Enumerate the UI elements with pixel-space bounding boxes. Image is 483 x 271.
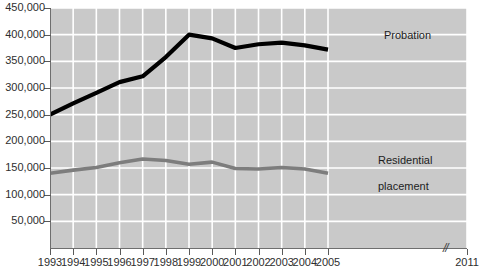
x-axis-tick-label: 2000 [200, 257, 224, 268]
y-axis-tick [44, 141, 51, 142]
y-axis-tick-label: 200,000 [5, 135, 45, 146]
y-axis-tick-label: 100,000 [5, 189, 45, 200]
plot-canvas [50, 8, 467, 248]
x-axis-tick-label: 2005 [316, 257, 340, 268]
x-axis-tick-label: 1997 [130, 257, 154, 268]
y-axis-tick [44, 35, 51, 36]
x-axis-tick [96, 249, 97, 255]
series-label-residential-line2: placement [378, 180, 429, 192]
y-axis-tick-label: 300,000 [5, 82, 45, 93]
x-axis-tick [166, 249, 167, 255]
x-axis-tick [467, 249, 468, 255]
y-axis-tick [44, 61, 51, 62]
x-axis-tick [305, 249, 306, 255]
x-axis-tick-label: 2011 [455, 257, 479, 268]
y-axis-tick [44, 8, 51, 9]
x-axis-tick-label: 2003 [269, 257, 293, 268]
x-axis-tick [282, 249, 283, 255]
x-axis-tick-label: 1994 [61, 257, 85, 268]
x-axis-tick [235, 249, 236, 255]
x-axis-tick [143, 249, 144, 255]
y-axis-tick-label: 350,000 [5, 55, 45, 66]
series-label-residential: Residential placement [378, 141, 432, 193]
x-axis-tick-label: 2004 [293, 257, 317, 268]
x-axis-tick [73, 249, 74, 255]
series-label-probation: Probation [384, 29, 431, 42]
x-axis-tick [259, 249, 260, 255]
x-axis-tick-label: 2001 [223, 257, 247, 268]
series-label-residential-line1: Residential [378, 154, 432, 166]
line-chart: 50,000100,000150,000200,000250,000300,00… [0, 0, 483, 271]
x-axis-tick [50, 249, 51, 255]
y-axis-tick-label: 450,000 [5, 2, 45, 13]
x-axis-tick [120, 249, 121, 255]
y-axis-tick-label: 400,000 [5, 29, 45, 40]
x-axis-tick-label: 1998 [154, 257, 178, 268]
y-axis-line [50, 8, 51, 249]
y-axis-tick [44, 115, 51, 116]
x-axis-tick [212, 249, 213, 255]
y-axis-tick [44, 195, 51, 196]
y-axis-tick-label: 250,000 [5, 109, 45, 120]
y-axis-tick [44, 88, 51, 89]
x-axis-tick-label: 2002 [246, 257, 270, 268]
x-axis-tick-label: 1993 [38, 257, 62, 268]
plot-area [50, 8, 467, 248]
y-axis-tick-label: 150,000 [5, 162, 45, 173]
x-axis-tick [189, 249, 190, 255]
axis-break-icon: // [443, 242, 448, 254]
x-axis-tick-label: 1995 [84, 257, 108, 268]
x-axis-tick-label: 1999 [177, 257, 201, 268]
y-axis-tick-label: 50,000 [11, 215, 45, 226]
x-axis-tick-label: 1996 [107, 257, 131, 268]
y-axis-tick [44, 221, 51, 222]
x-axis-tick [328, 249, 329, 255]
y-axis-tick [44, 168, 51, 169]
